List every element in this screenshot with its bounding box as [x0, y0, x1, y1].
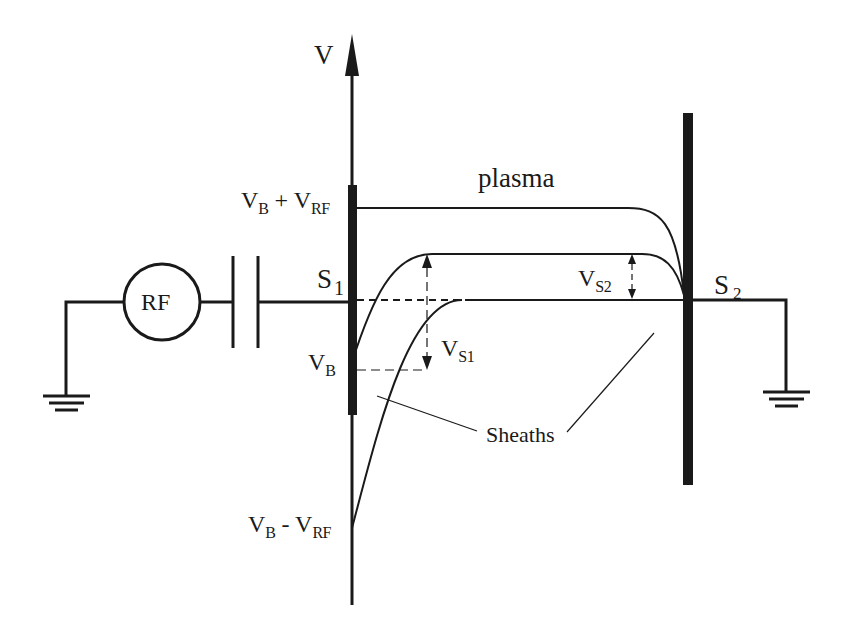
vs2-arrow-up-icon: [628, 254, 636, 264]
vs2-arrow-down-icon: [628, 289, 636, 299]
lower-op: -: [276, 511, 296, 537]
rf-source-label: RF: [141, 290, 170, 314]
s2-sub: 2: [733, 284, 742, 303]
electrode-s1: [348, 185, 357, 415]
vs1-sub: S1: [458, 348, 474, 365]
s2-name: S: [714, 270, 729, 300]
axis-label-v: V: [314, 42, 334, 69]
sheath-leader-right: [567, 333, 654, 432]
upper-op: +: [269, 187, 294, 213]
s1-name: S: [317, 264, 332, 294]
upper-base-sub: B: [258, 200, 268, 217]
sheaths-label: Sheaths: [486, 424, 554, 446]
bias-base-sub: B: [325, 362, 335, 379]
electrode-label-s1: S1: [317, 266, 344, 293]
plasma-label: plasma: [478, 165, 554, 192]
left-ground-icon: [43, 396, 90, 410]
vs1-base: V: [441, 335, 458, 361]
electrode-label-s2: S2: [714, 272, 742, 299]
vs2-label: VS2: [578, 266, 611, 290]
level-label-upper: VB + VRF: [241, 188, 330, 212]
s1-sub: 1: [334, 277, 344, 299]
upper-base: V: [241, 187, 258, 213]
sheath-leader-left: [377, 396, 477, 431]
right-ground-wire: [693, 300, 786, 392]
rf-sheath-diagram: [0, 0, 851, 633]
potential-curve-mean: [352, 254, 684, 362]
vs2-sub: S2: [595, 278, 611, 295]
left-circuit: [66, 256, 350, 396]
vs1-label: VS1: [441, 336, 474, 360]
potential-curve-max: [357, 208, 684, 295]
upper-term: V: [294, 187, 311, 213]
level-label-bias: VB: [308, 350, 336, 374]
level-label-lower: VB - VRF: [248, 512, 331, 536]
lower-term: V: [295, 511, 312, 537]
electrode-s2: [683, 113, 693, 485]
bias-base: V: [308, 349, 325, 375]
vs1-arrow-up-icon: [422, 254, 432, 268]
upper-term-sub: RF: [311, 200, 330, 217]
lower-base-sub: B: [265, 524, 275, 541]
vs2-base: V: [578, 265, 595, 291]
right-ground-icon: [763, 392, 810, 406]
lower-base: V: [248, 511, 265, 537]
left-ground-wire: [66, 302, 124, 396]
vs1-arrow-down-icon: [422, 356, 432, 370]
lower-term-sub: RF: [312, 524, 331, 541]
axis-arrow-icon: [345, 34, 359, 76]
